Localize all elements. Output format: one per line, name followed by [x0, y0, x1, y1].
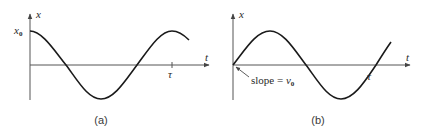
panel-a-caption: (a): [94, 114, 107, 126]
panel-a-tau-label: τ: [168, 68, 173, 80]
panel-a: x t x0 τ (a): [13, 8, 209, 126]
panel-b-slope-pointer: [236, 67, 249, 77]
panel-b-t-label: t: [406, 51, 410, 63]
panel-b-y-label: x: [238, 8, 244, 20]
panel-b-caption: (b): [311, 114, 324, 126]
panel-b-slope-label: slope = v0: [251, 74, 295, 88]
panel-a-y-label: x: [35, 8, 41, 20]
panel-b: x t slope = v0 τ (b): [233, 8, 410, 126]
panel-a-x0-label: x0: [13, 24, 23, 38]
panel-a-t-label: t: [205, 51, 209, 63]
diagram-canvas: x t x0 τ (a) x t slope = v0 τ (b): [0, 0, 429, 135]
